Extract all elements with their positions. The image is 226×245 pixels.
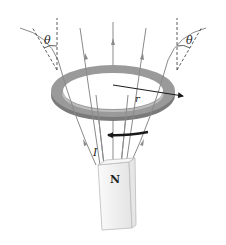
north-pole-label: N	[110, 173, 120, 186]
angle-label-right: θ	[186, 34, 193, 47]
angle-marker-right: θ	[177, 18, 202, 70]
angle-marker-left: θ	[32, 18, 57, 70]
conducting-ring	[51, 65, 175, 121]
angle-label-left: θ	[44, 34, 51, 47]
diagram-canvas: θ θ r I N	[0, 0, 226, 245]
current-label: I	[92, 146, 98, 159]
bar-magnet: N	[98, 158, 136, 230]
